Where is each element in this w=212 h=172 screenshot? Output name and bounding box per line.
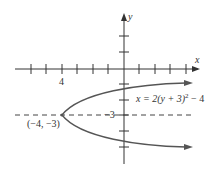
y-tick-label: −3 bbox=[104, 110, 115, 120]
x-axis bbox=[15, 64, 200, 74]
arrow-upper-icon bbox=[184, 80, 193, 86]
equation-lhs: x = 2(y + 3) bbox=[136, 93, 185, 104]
vertex-label: (−4, −3) bbox=[27, 119, 60, 129]
parabola-graph bbox=[0, 0, 212, 172]
vertex-point bbox=[61, 114, 64, 117]
equation-rhs: − 4 bbox=[189, 93, 205, 104]
y-axis-label: y bbox=[128, 12, 132, 22]
x-tick-label: 4 bbox=[59, 77, 64, 87]
equation-label: x = 2(y + 3)2 − 4 bbox=[136, 93, 204, 104]
arrow-lower-icon bbox=[184, 144, 193, 150]
x-axis-label: x bbox=[195, 55, 199, 65]
